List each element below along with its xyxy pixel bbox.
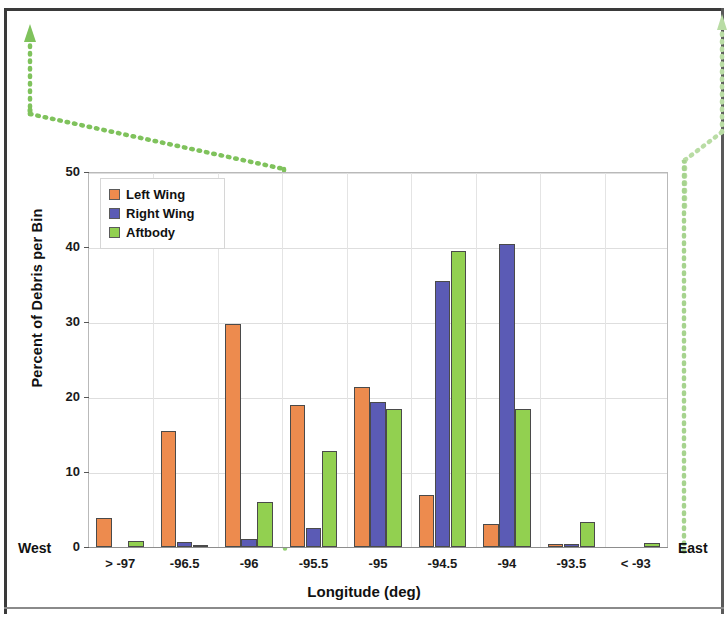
y-tick-label-40: 40: [50, 239, 80, 254]
bar: [354, 387, 370, 547]
bar: [257, 502, 273, 547]
bar: [580, 522, 596, 547]
legend-swatch-icon: [109, 227, 120, 238]
legend-item-label: Aftbody: [126, 225, 175, 240]
bar: [225, 324, 241, 548]
bar: [644, 543, 660, 548]
bar: [386, 409, 402, 547]
bar: [451, 251, 467, 547]
y-tick-mark-30: [84, 322, 89, 323]
bar: [193, 545, 209, 547]
y-axis-title: Percent of Debris per Bin: [29, 168, 45, 428]
y-tick-mark-40: [84, 247, 89, 248]
y-tick-label-10: 10: [50, 464, 80, 479]
y-tick-label-20: 20: [50, 389, 80, 404]
legend-item-label: Right Wing: [126, 206, 194, 221]
x-axis-line: [88, 547, 668, 548]
legend-item-label: Left Wing: [126, 187, 185, 202]
bar: [96, 518, 112, 547]
bar: [306, 528, 322, 547]
legend-item: Left Wing: [109, 185, 216, 204]
bar: [564, 544, 580, 547]
legend-swatch-icon: [109, 208, 120, 219]
y-tick-mark-10: [84, 472, 89, 473]
bar: [290, 405, 306, 547]
page-border-right: [721, 8, 724, 614]
east-direction-label: East: [678, 540, 708, 556]
bar: [177, 542, 193, 547]
y-tick-mark-50: [84, 172, 89, 173]
bar: [241, 539, 257, 547]
x-axis-title: Longitude (deg): [0, 583, 728, 600]
y-tick-label-30: 30: [50, 314, 80, 329]
bar: [548, 544, 564, 547]
x-tick-label-8: < -93: [596, 556, 676, 571]
bar: [370, 402, 386, 547]
scanned-figure-page: 01020304050 Percent of Debris per Bin > …: [0, 0, 728, 619]
y-axis-ticks: 01020304050: [44, 0, 80, 619]
bar: [128, 541, 144, 547]
legend-item: Right Wing: [109, 204, 216, 223]
y-tick-label-50: 50: [50, 164, 80, 179]
legend-item: Aftbody: [109, 223, 216, 242]
bar: [322, 451, 338, 547]
west-direction-label: West: [18, 540, 51, 556]
legend-swatch-icon: [109, 189, 120, 200]
y-tick-mark-0: [84, 547, 89, 548]
bar: [483, 524, 499, 547]
page-border-bottom: [4, 607, 724, 609]
bar: [161, 431, 177, 547]
y-tick-mark-20: [84, 397, 89, 398]
y-tick-label-0: 0: [50, 539, 80, 554]
bar: [515, 409, 531, 547]
bar: [419, 495, 435, 547]
bar: [435, 281, 451, 547]
chart-legend: Left WingRight WingAftbody: [100, 178, 225, 249]
bar: [499, 244, 515, 547]
